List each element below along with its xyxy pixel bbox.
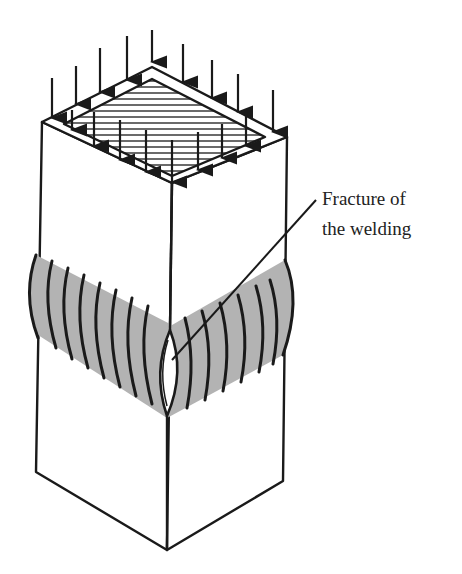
annotation-line-2: the welding (322, 216, 411, 242)
annotation-line-1: Fracture of (322, 186, 406, 212)
column-diagram (0, 0, 462, 574)
